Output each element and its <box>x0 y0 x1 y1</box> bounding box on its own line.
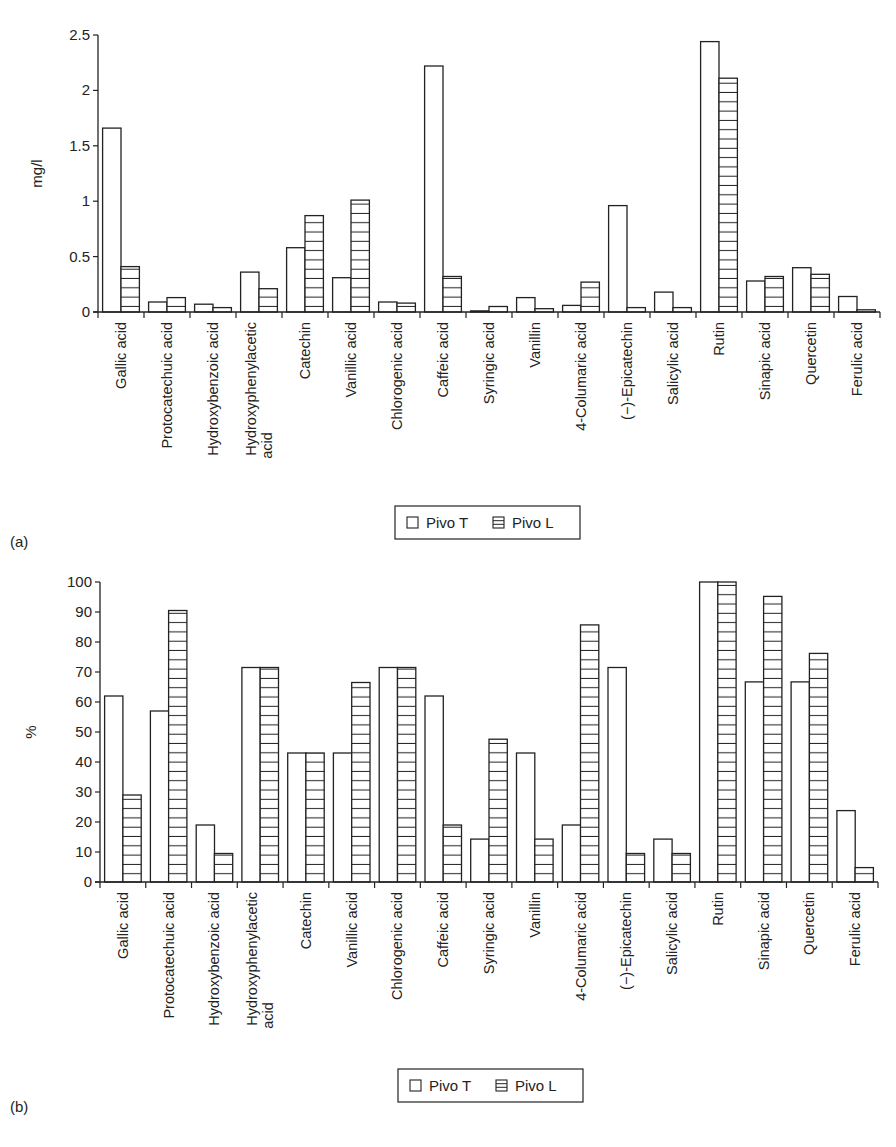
panel-label: (a) <box>10 533 28 550</box>
bar-pivo-l <box>443 825 461 882</box>
x-category-label: 4-Columaric acid <box>573 892 589 1001</box>
bar-pivo-l <box>719 78 737 312</box>
bar-pivo-t <box>333 753 351 882</box>
y-tick-label: 70 <box>75 663 92 680</box>
x-category-label: Salicylic acid <box>664 892 680 975</box>
bar-pivo-t <box>654 839 672 882</box>
x-category-label: Hydroxybenzoic acid <box>205 322 221 456</box>
bar-pivo-t <box>471 839 489 882</box>
x-category-label: Catechin <box>298 892 314 949</box>
bar-pivo-t <box>241 272 259 312</box>
bar-pivo-l <box>214 854 232 883</box>
bar-pivo-t <box>747 281 765 312</box>
y-axis-label: % <box>22 725 39 738</box>
bar-pivo-l <box>673 308 691 312</box>
bar-pivo-l <box>581 282 599 312</box>
bar-pivo-t <box>149 302 167 312</box>
bar-pivo-t <box>745 682 763 882</box>
legend-label-pivo-t: Pivo T <box>429 1077 471 1094</box>
bar-pivo-l <box>123 795 141 882</box>
x-category-label: Salicylic acid <box>665 322 681 405</box>
bar-pivo-l <box>764 596 782 882</box>
bar-pivo-l <box>398 668 416 883</box>
bar-pivo-l <box>121 267 139 312</box>
bar-pivo-l <box>626 854 644 883</box>
bar-pivo-t <box>608 668 626 883</box>
y-tick-label: 40 <box>75 753 92 770</box>
bar-pivo-l <box>259 289 277 312</box>
x-category-label: Ferulic acid <box>847 892 863 966</box>
x-category-label: (−)-Epicatechin <box>618 892 634 990</box>
bar-pivo-l <box>718 582 736 882</box>
bar-pivo-t <box>195 304 213 312</box>
x-category-label: Catechin <box>297 322 313 379</box>
y-tick-label: 30 <box>75 783 92 800</box>
x-category-label: Sinapic acid <box>757 322 773 400</box>
legend-label-pivo-l: Pivo L <box>512 514 554 531</box>
bar-pivo-t <box>793 268 811 312</box>
x-category-label: Gallic acid <box>115 892 131 959</box>
x-category-label: Vanillic acid <box>344 892 360 968</box>
bar-pivo-t <box>379 302 397 312</box>
chart-b: 0102030405060708090100%Gallic acidProtoc… <box>10 573 878 1115</box>
y-tick-label: 100 <box>67 573 92 590</box>
x-category-label: Vanillic acid <box>343 322 359 398</box>
x-category-label: acid <box>260 1002 276 1029</box>
bar-pivo-l <box>672 854 690 883</box>
y-tick-label: 0 <box>84 873 92 890</box>
bar-pivo-l <box>169 611 187 883</box>
bar-pivo-l <box>306 753 324 882</box>
y-tick-label: 0 <box>82 303 90 320</box>
x-category-label: Chlorogenic acid <box>389 322 405 430</box>
x-category-label: Ferulic acid <box>849 322 865 396</box>
legend-swatch-pivo-t <box>410 1080 421 1091</box>
y-tick-label: 1 <box>82 192 90 209</box>
bar-pivo-l <box>535 839 553 882</box>
bar-pivo-l <box>443 277 461 313</box>
bar-pivo-l <box>855 868 873 882</box>
y-tick-label: 1.5 <box>69 137 90 154</box>
bar-pivo-t <box>609 206 627 312</box>
bar-pivo-l <box>167 298 185 312</box>
x-category-label: Chlorogenic acid <box>389 892 405 1000</box>
x-category-label: Sinapic acid <box>756 892 772 970</box>
y-tick-label: 80 <box>75 633 92 650</box>
x-category-label: Vanillin <box>527 322 543 368</box>
x-category-label: Hydroxyphenylacetic <box>243 322 259 456</box>
bar-pivo-t <box>287 248 305 312</box>
x-category-label: Gallic acid <box>113 322 129 389</box>
y-tick-label: 90 <box>75 603 92 620</box>
bar-pivo-l <box>397 303 415 312</box>
y-tick-label: 10 <box>75 843 92 860</box>
legend: Pivo TPivo L <box>395 506 580 539</box>
bar-pivo-t <box>103 128 121 312</box>
x-category-label: Hydroxyphenylacetic <box>244 892 260 1026</box>
x-category-label: Quercetin <box>803 322 819 385</box>
x-category-label: Caffeic acid <box>435 322 451 398</box>
y-tick-label: 2.5 <box>69 26 90 43</box>
bar-pivo-t <box>655 292 673 312</box>
bar-pivo-t <box>425 66 443 312</box>
bar-pivo-t <box>791 682 809 882</box>
bar-pivo-t <box>333 278 351 312</box>
bar-pivo-t <box>288 753 306 882</box>
y-tick-label: 2 <box>82 81 90 98</box>
x-category-label: Rutin <box>711 322 727 356</box>
panel-label: (b) <box>10 1098 28 1115</box>
x-category-label: Rutin <box>710 892 726 926</box>
y-axis-label: mg/l <box>28 159 45 187</box>
legend: Pivo TPivo L <box>398 1069 583 1102</box>
bar-pivo-l <box>581 625 599 882</box>
y-tick-label: 20 <box>75 813 92 830</box>
bar-pivo-l <box>305 216 323 312</box>
bar-pivo-l <box>765 277 783 313</box>
bar-pivo-l <box>489 307 507 313</box>
x-category-label: Hydroxybenzoic acid <box>206 892 222 1026</box>
x-category-label: 4-Columaric acid <box>573 322 589 431</box>
legend-swatch-pivo-t <box>407 517 418 528</box>
bar-pivo-l <box>489 739 507 882</box>
bar-pivo-t <box>517 298 535 312</box>
x-category-label: Protocatechuic acid <box>161 892 177 1019</box>
bar-pivo-t <box>562 825 580 882</box>
y-tick-label: 50 <box>75 723 92 740</box>
